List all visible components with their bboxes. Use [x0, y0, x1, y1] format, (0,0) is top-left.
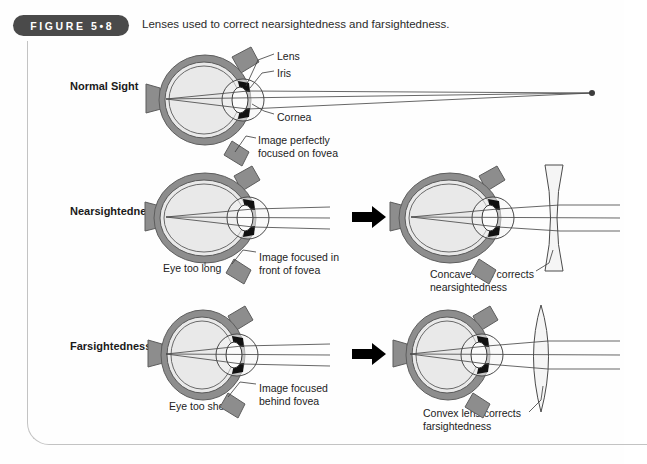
figure-number-badge: FIGURE 5•8	[13, 15, 129, 36]
figure-caption: Lenses used to correct nearsightedness a…	[142, 18, 450, 30]
annotation-eye-too-long: Eye too long	[163, 262, 221, 275]
row-label-nearsightedness: Nearsightedness	[70, 205, 159, 217]
annotation-iris-normal: Iris	[277, 67, 291, 80]
annotation-focus-farsighted: Image focused behind fovea	[259, 382, 328, 407]
annotation-focus-nearsighted: Image focused in front of fovea	[259, 251, 339, 276]
figure-frame-border	[27, 41, 647, 445]
row-label-farsightedness: Farsightedness	[70, 340, 151, 352]
annotation-lens-normal: Lens	[277, 50, 300, 63]
annotation-eye-too-short: Eye too short	[169, 400, 231, 413]
row-label-normal-sight: Normal Sight	[70, 80, 138, 92]
annotation-convex-correction: Convex lens corrects farsightedness	[423, 407, 521, 432]
annotation-focus-normal: Image perfectly focused on fovea	[258, 134, 338, 159]
annotation-cornea-normal: Cornea	[277, 111, 311, 124]
annotation-concave-correction: Concave lens corrects nearsightedness	[430, 268, 534, 293]
